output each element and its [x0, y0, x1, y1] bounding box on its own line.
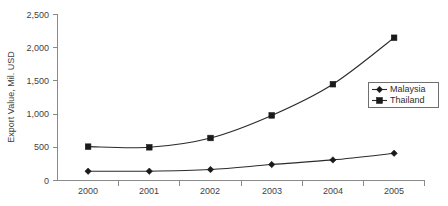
series-thailand [85, 35, 397, 150]
x-tick-label: 2003 [262, 186, 282, 196]
x-tick-label: 2002 [200, 186, 220, 196]
diamond-marker [330, 157, 336, 163]
y-axis-ticks [53, 15, 58, 181]
x-axis-ticks [119, 181, 425, 186]
y-axis-title: Export Value, Mil. USD [6, 51, 16, 143]
y-tick-label: 0 [44, 176, 49, 186]
chart-canvas: 0 500 1,000 1,500 2,000 2,500 Export Val… [0, 0, 448, 206]
x-tick-label: 2004 [323, 186, 343, 196]
chart-legend[interactable]: Malaysia Thailand [369, 83, 439, 108]
y-tick-label: 1,500 [26, 76, 49, 86]
square-marker [391, 35, 397, 41]
thailand-line [88, 38, 394, 148]
x-axis-tick-labels: 2000 2001 2002 2003 2004 2005 [78, 186, 404, 196]
thailand-markers [85, 35, 397, 150]
square-marker [330, 81, 336, 87]
x-tick-label: 2000 [78, 186, 98, 196]
square-marker [208, 135, 214, 141]
legend-label-malaysia: Malaysia [390, 84, 426, 94]
malaysia-markers [85, 150, 397, 174]
diamond-marker [207, 166, 213, 172]
y-axis-tick-labels: 0 500 1,000 1,500 2,000 2,500 [26, 10, 49, 186]
y-tick-label: 2,000 [26, 43, 49, 53]
square-marker [85, 144, 91, 150]
diamond-marker [85, 168, 91, 174]
x-tick-label: 2005 [384, 186, 404, 196]
y-tick-label: 500 [34, 142, 49, 152]
diamond-marker [391, 150, 397, 156]
y-tick-label: 2,500 [26, 10, 49, 20]
legend-label-thailand: Thailand [390, 95, 425, 105]
line-chart: 0 500 1,000 1,500 2,000 2,500 Export Val… [0, 0, 448, 206]
diamond-marker [146, 168, 152, 174]
diamond-marker [269, 161, 275, 167]
square-marker [269, 113, 275, 119]
square-marker [377, 98, 383, 104]
malaysia-line [88, 153, 394, 171]
y-tick-label: 1,000 [26, 109, 49, 119]
x-tick-label: 2001 [139, 186, 159, 196]
square-marker [147, 145, 153, 151]
series-malaysia [85, 150, 397, 174]
